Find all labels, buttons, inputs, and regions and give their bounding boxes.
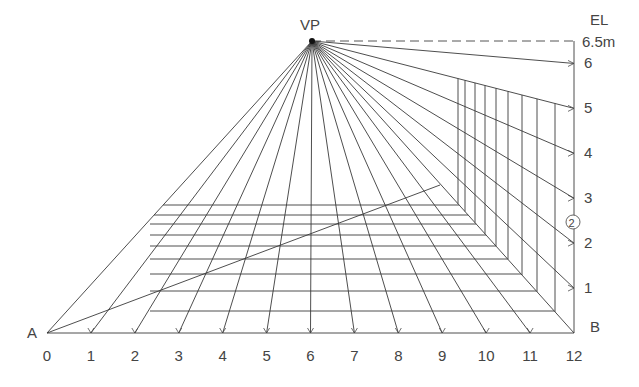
y-tick-label: 3 [584, 189, 592, 206]
perspective-geometry [47, 38, 574, 333]
x-tick-label: 0 [43, 347, 51, 364]
base-arrow-icon [483, 328, 489, 333]
wall-ray-5 [312, 41, 574, 108]
height-marker-label: 6.5m [582, 33, 615, 50]
floor-ray-12 [312, 41, 574, 333]
x-tick-label: 5 [262, 347, 270, 364]
x-tick-label: 2 [131, 347, 139, 364]
floor-ray-0 [47, 41, 312, 333]
el-label: EL [590, 11, 608, 28]
wall-ray-1 [312, 41, 574, 288]
x-tick-label: 10 [478, 347, 495, 364]
wall-ray-2 [312, 41, 574, 243]
x-axis-tick-labels: 0123456789101112 [43, 347, 583, 364]
y-axis-tick-labels: 123456 [584, 54, 592, 296]
corner-b-label: B [590, 318, 600, 335]
circled-marker-text: 2 [569, 217, 575, 229]
height-arrow-icon [568, 285, 574, 291]
base-arrow-icon [132, 328, 138, 333]
y-tick-label: 1 [584, 279, 592, 296]
y-tick-label: 4 [584, 144, 592, 161]
wall-ray-4 [312, 41, 574, 153]
y-tick-label: 6 [584, 54, 592, 71]
x-tick-label: 12 [566, 347, 583, 364]
x-tick-label: 3 [175, 347, 183, 364]
x-tick-label: 1 [87, 347, 95, 364]
base-arrow-icon [220, 328, 226, 333]
floor-ray-7 [312, 41, 354, 333]
x-tick-label: 7 [350, 347, 358, 364]
floor-ray-6 [311, 41, 313, 333]
wall-ray-6 [312, 41, 574, 63]
y-tick-label: 5 [584, 99, 592, 116]
floor-ray-2 [135, 41, 312, 333]
vp-label: VP [300, 16, 320, 33]
x-tick-label: 9 [438, 347, 446, 364]
floor-ray-4 [223, 41, 312, 333]
floor-ray-5 [267, 41, 312, 333]
floor-ray-1 [91, 41, 312, 333]
x-tick-label: 8 [394, 347, 402, 364]
base-arrow-icon [176, 328, 182, 333]
x-tick-label: 4 [218, 347, 226, 364]
x-tick-label: 11 [522, 347, 538, 364]
y-tick-label: 2 [584, 234, 592, 251]
x-tick-label: 6 [306, 347, 314, 364]
floor-ray-11 [312, 41, 530, 333]
floor-ray-9 [312, 41, 442, 333]
vanishing-point-dot [309, 38, 315, 44]
perspective-diagram: VP EL A B 6.5m 2 0123456789101112 123456 [0, 0, 639, 387]
floor-ray-3 [179, 41, 312, 333]
floor-ray-10 [312, 41, 486, 333]
base-arrow-icon [395, 328, 401, 333]
base-arrow-icon [439, 328, 445, 333]
corner-a-label: A [27, 324, 37, 341]
